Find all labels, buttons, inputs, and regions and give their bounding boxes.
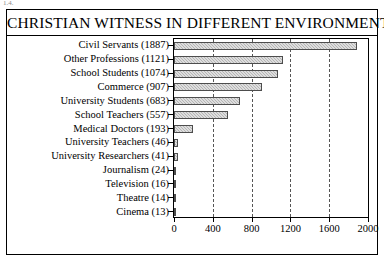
value-tick-0 [174,218,175,222]
value-tick-label: 800 [244,223,260,235]
figure-frame: CHRISTIAN WITNESS IN DIFFERENT ENVIRONME… [6,9,378,255]
value-axis: 0400800120016002000 [7,10,377,254]
value-tick-400 [213,218,214,222]
value-tick-1200 [290,218,291,222]
page-top-text-fragment: 1.4. [3,0,29,6]
value-tick-1600 [329,218,330,222]
value-tick-label: 2000 [358,223,379,235]
value-tick-2000 [368,218,369,222]
value-tick-label: 1200 [280,223,301,235]
value-tick-800 [252,218,253,222]
value-tick-label: 400 [205,223,221,235]
value-tick-label: 1600 [319,223,340,235]
value-tick-label: 0 [171,223,176,235]
